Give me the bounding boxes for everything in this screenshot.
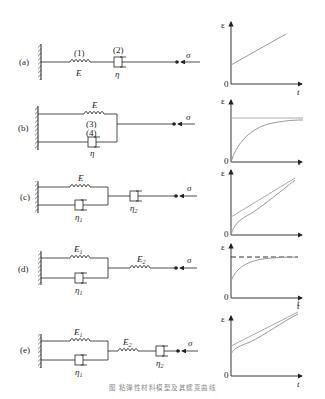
spring-icon bbox=[70, 60, 90, 63]
asymptote bbox=[231, 312, 298, 346]
row-b-creep-graph: ε 0 bbox=[221, 96, 303, 166]
element-number: (4) bbox=[86, 128, 97, 138]
creep-curve bbox=[231, 314, 298, 354]
spring-label: E bbox=[91, 100, 98, 110]
load-point bbox=[175, 60, 179, 64]
spring-icon bbox=[70, 256, 90, 259]
stress-label: σ bbox=[186, 112, 191, 122]
origin-label: 0 bbox=[224, 370, 229, 380]
dashpot-icon bbox=[75, 273, 83, 283]
figure-caption: 图 粘弹性材料模型及其蠕变曲线 bbox=[0, 382, 325, 392]
spring-icon bbox=[70, 185, 90, 188]
stress-label: σ bbox=[186, 50, 191, 60]
row-tag: (c) bbox=[20, 192, 30, 202]
spring-icon bbox=[118, 349, 138, 352]
row-tag: (d) bbox=[18, 264, 29, 274]
dashpot-icon bbox=[75, 200, 83, 210]
dashpot-label: η1 bbox=[75, 285, 82, 296]
creep-curve bbox=[231, 180, 295, 235]
dashpot-label: η bbox=[115, 69, 120, 79]
element-number: (2) bbox=[113, 45, 124, 55]
row-a-model: (a) σ (1) E (2) η bbox=[19, 44, 200, 80]
dashpot-icon bbox=[156, 346, 164, 356]
dashpot-label: η1 bbox=[75, 212, 82, 223]
row-tag: (a) bbox=[19, 57, 29, 67]
dashpot-icon bbox=[88, 137, 96, 147]
load-point bbox=[172, 122, 176, 126]
y-axis-label: ε bbox=[221, 168, 225, 178]
asymptote bbox=[231, 178, 295, 217]
row-a-creep-graph: ε 0 t bbox=[221, 20, 302, 97]
origin-label: 0 bbox=[224, 292, 229, 302]
x-axis-label: t bbox=[297, 87, 300, 97]
dashpot-icon bbox=[130, 191, 138, 201]
y-axis-label: ε bbox=[221, 314, 225, 324]
creep-curve bbox=[231, 34, 286, 65]
row-tag: (b) bbox=[18, 123, 29, 133]
row-e-model: (e) σ E1 η1 E2 η2 bbox=[20, 327, 198, 378]
dashpot-label: η bbox=[90, 148, 95, 158]
spring-label: E bbox=[77, 173, 84, 183]
row-d-model: (d) σ E1 η1 E2 bbox=[18, 244, 197, 296]
spring-icon bbox=[70, 339, 90, 342]
dashpot-label: η2 bbox=[130, 203, 137, 214]
origin-label: 0 bbox=[224, 156, 229, 166]
dashpot-label: η2 bbox=[156, 358, 163, 369]
viscoelastic-models-figure: (a) σ (1) E (2) η ε 0 t (b) bbox=[0, 0, 325, 399]
creep-curve bbox=[231, 257, 298, 281]
row-tag: (e) bbox=[20, 345, 30, 355]
spring-label: E2 bbox=[122, 337, 132, 348]
dashpot-label: η1 bbox=[75, 367, 82, 378]
y-axis-label: ε bbox=[221, 242, 225, 252]
element-number: (1) bbox=[74, 48, 85, 58]
row-c-model: (c) σ E η1 η2 bbox=[20, 173, 197, 223]
origin-label: 0 bbox=[224, 229, 229, 239]
spring-icon bbox=[84, 112, 104, 115]
stress-label: σ bbox=[187, 255, 192, 265]
load-point bbox=[174, 194, 178, 198]
stress-label: σ bbox=[187, 183, 192, 193]
spring-label: E2 bbox=[136, 254, 146, 265]
row-d-creep-graph: ε 0 t bbox=[221, 242, 302, 311]
spring-label: E1 bbox=[73, 327, 83, 338]
y-axis-label: ε bbox=[221, 96, 225, 106]
row-b-model: (b) σ E (3) (4) η bbox=[18, 100, 195, 158]
load-point bbox=[176, 349, 180, 353]
dashpot-icon bbox=[75, 355, 83, 365]
row-c-creep-graph: ε 0 t bbox=[221, 157, 302, 239]
load-point bbox=[174, 266, 178, 270]
origin-label: 0 bbox=[224, 79, 229, 89]
dashpot-icon bbox=[114, 57, 122, 67]
x-axis-label: t bbox=[297, 298, 300, 308]
y-axis-label: ε bbox=[221, 20, 225, 30]
spring-label: E bbox=[75, 68, 82, 78]
creep-curve bbox=[231, 120, 303, 162]
spring-icon bbox=[130, 266, 150, 269]
stress-label: σ bbox=[188, 338, 193, 348]
spring-label: E1 bbox=[73, 244, 83, 255]
row-e-creep-graph: ε 0 t t bbox=[221, 298, 302, 389]
